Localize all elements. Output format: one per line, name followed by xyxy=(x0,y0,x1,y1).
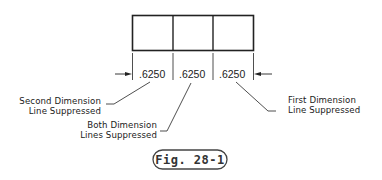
box-outline xyxy=(133,16,254,51)
dimension-value-1: .6250 xyxy=(139,68,165,80)
leader-second xyxy=(106,82,150,104)
figure-caption: Fig. 28-1 xyxy=(153,150,227,169)
dimension-value-2: .6250 xyxy=(179,68,205,80)
right-arrowhead-icon xyxy=(254,72,261,76)
callout-both-line2: Lines Suppressed xyxy=(80,130,157,140)
callout-first-line2: Line Suppressed xyxy=(288,105,360,115)
callout-second-line2: Line Suppressed xyxy=(29,106,101,116)
caption-text: Fig. 28-1 xyxy=(155,153,225,167)
left-arrowhead-icon xyxy=(125,72,132,76)
callout-both-line1: Both Dimension xyxy=(87,120,157,130)
callout-second-line1: Second Dimension xyxy=(19,96,101,106)
leader-first xyxy=(236,82,276,111)
dimension-value-3: .6250 xyxy=(219,68,245,80)
leader-both xyxy=(160,83,191,131)
object-box xyxy=(133,16,254,51)
callout-first-line1: First Dimension xyxy=(288,95,356,105)
diagram-canvas: .6250 .6250 .6250 Second Dimension Line … xyxy=(0,0,382,180)
